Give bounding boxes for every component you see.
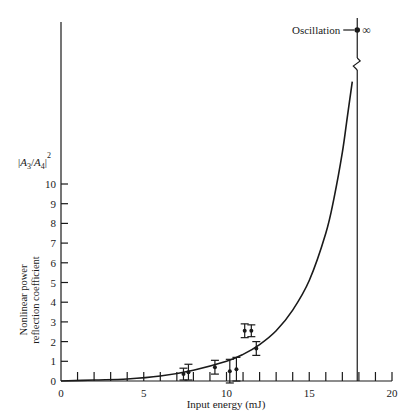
x-tick-label: 20 [387,387,399,399]
data-point [211,360,219,374]
y-axis-ticks: 012345678910 [45,178,68,387]
y-tick-label: 10 [45,178,57,190]
oscillation-threshold-line [343,18,360,381]
y-tick-label: 3 [51,316,57,328]
chart-canvas: 012345678910 05101520 Input energy (mJ) … [0,0,411,420]
y-tick-label: 6 [51,257,57,269]
data-marker [243,329,247,333]
theory-curve [61,82,352,381]
data-point [241,324,249,338]
y-tick-label: 5 [51,277,57,289]
data-marker [181,372,185,376]
experimental-data-points [179,324,260,383]
x-tick-label: 0 [58,387,64,399]
data-marker [249,329,253,333]
x-axis-ticks: 05101520 [58,372,398,399]
data-point [247,325,255,337]
y-tick-label: 1 [51,355,57,367]
axes [61,22,392,381]
y-tick-label: 9 [51,198,57,210]
y-axis-label-line2: reflection coefficient [30,256,41,344]
y-tick-label: 4 [51,296,57,308]
y-tick-label: 2 [51,336,57,348]
data-marker [213,365,217,369]
x-axis-label: Input energy (mJ) [187,398,266,411]
oscillation-annotation: Oscillation [292,24,341,36]
y-tick-label: 0 [51,375,57,387]
x-tick-label: 15 [304,387,316,399]
data-marker [228,369,232,373]
data-marker [186,370,190,374]
data-marker [234,367,238,371]
data-point [179,368,187,380]
data-point [232,357,240,381]
x-tick-label: 5 [141,387,147,399]
axis-break-icon [353,58,360,70]
infinity-symbol: ∞ [362,23,371,37]
oscillation-dot-icon [354,27,360,33]
y-tick-label: 8 [51,217,57,229]
data-marker [254,346,258,350]
y-tick-label: 7 [51,237,57,249]
y-axis-label-line1: Nonlinear power [18,264,29,335]
y-quantity-label: |A3/A4|2 [18,151,51,171]
